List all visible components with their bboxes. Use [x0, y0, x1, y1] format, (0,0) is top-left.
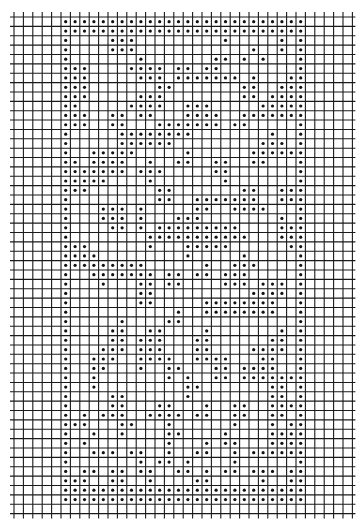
filled-cell-dot — [111, 339, 114, 342]
filled-cell-dot — [102, 367, 105, 370]
filled-cell-dot — [262, 348, 265, 351]
filled-cell-dot — [168, 320, 171, 323]
filled-cell-dot — [252, 198, 255, 201]
filled-cell-dot — [299, 470, 302, 473]
filled-cell-dot — [158, 236, 161, 239]
filled-cell-dot — [280, 498, 283, 501]
filled-cell-dot — [139, 114, 142, 117]
filled-cell-dot — [130, 142, 133, 145]
filled-cell-dot — [262, 151, 265, 154]
filled-cell-dot — [83, 470, 86, 473]
filled-cell-dot — [158, 414, 161, 417]
filled-cell-dot — [299, 301, 302, 304]
filled-cell-dot — [205, 226, 208, 229]
filled-cell-dot — [111, 329, 114, 332]
filled-cell-dot — [280, 20, 283, 23]
filled-cell-dot — [64, 207, 67, 210]
filled-cell-dot — [290, 29, 293, 32]
filled-cell-dot — [243, 404, 246, 407]
filled-cell-dot — [196, 76, 199, 79]
filled-cell-dot — [83, 76, 86, 79]
filled-cell-dot — [83, 254, 86, 257]
filled-cell-dot — [92, 489, 95, 492]
filled-cell-dot — [168, 489, 171, 492]
filled-cell-dot — [215, 367, 218, 370]
filled-cell-dot — [252, 301, 255, 304]
filled-cell-dot — [186, 376, 189, 379]
filled-cell-dot — [92, 151, 95, 154]
filled-cell-dot — [83, 489, 86, 492]
filled-cell-dot — [177, 133, 180, 136]
filled-cell-dot — [205, 301, 208, 304]
filled-cell-dot — [186, 20, 189, 23]
filled-cell-dot — [196, 20, 199, 23]
filled-cell-dot — [280, 339, 283, 342]
filled-cell-dot — [224, 498, 227, 501]
filled-cell-dot — [83, 20, 86, 23]
filled-cell-dot — [224, 161, 227, 164]
filled-cell-dot — [205, 404, 208, 407]
filled-cell-dot — [205, 20, 208, 23]
filled-cell-dot — [290, 451, 293, 454]
filled-cell-dot — [299, 48, 302, 51]
filled-cell-dot — [83, 479, 86, 482]
filled-cell-dot — [205, 357, 208, 360]
filled-cell-dot — [177, 273, 180, 276]
filled-cell-dot — [139, 104, 142, 107]
filled-cell-dot — [243, 301, 246, 304]
filled-cell-dot — [224, 470, 227, 473]
filled-cell-dot — [215, 376, 218, 379]
filled-cell-dot — [111, 20, 114, 23]
filled-cell-dot — [139, 142, 142, 145]
filled-cell-dot — [186, 386, 189, 389]
filled-cell-dot — [130, 489, 133, 492]
filled-cell-dot — [280, 376, 283, 379]
filled-cell-dot — [262, 451, 265, 454]
filled-cell-dot — [299, 86, 302, 89]
filled-cell-dot — [299, 498, 302, 501]
filled-cell-dot — [299, 404, 302, 407]
filled-cell-dot — [149, 95, 152, 98]
filled-cell-dot — [262, 367, 265, 370]
filled-cell-dot — [158, 20, 161, 23]
filled-cell-dot — [224, 301, 227, 304]
filled-cell-dot — [64, 479, 67, 482]
filled-cell-dot — [280, 414, 283, 417]
filled-cell-dot — [186, 498, 189, 501]
filled-cell-dot — [224, 236, 227, 239]
filled-cell-dot — [177, 470, 180, 473]
filled-cell-dot — [83, 170, 86, 173]
filled-cell-dot — [64, 470, 67, 473]
filled-cell-dot — [252, 161, 255, 164]
filled-cell-dot — [224, 376, 227, 379]
filled-cell-dot — [252, 498, 255, 501]
filled-cell-dot — [271, 357, 274, 360]
filled-cell-dot — [121, 489, 124, 492]
filled-cell-dot — [233, 301, 236, 304]
filled-cell-dot — [83, 114, 86, 117]
filled-cell-dot — [299, 254, 302, 257]
filled-cell-dot — [224, 170, 227, 173]
filled-cell-dot — [290, 423, 293, 426]
filled-cell-dot — [111, 451, 114, 454]
filled-cell-dot — [233, 76, 236, 79]
filled-cell-dot — [299, 236, 302, 239]
filled-cell-dot — [299, 151, 302, 154]
filled-cell-dot — [262, 489, 265, 492]
filled-cell-dot — [158, 133, 161, 136]
filled-cell-dot — [130, 451, 133, 454]
filled-cell-dot — [121, 20, 124, 23]
filled-cell-dot — [139, 76, 142, 79]
filled-cell-dot — [111, 226, 114, 229]
filled-cell-dot — [215, 170, 218, 173]
filled-cell-dot — [224, 432, 227, 435]
filled-cell-dot — [177, 29, 180, 32]
filled-cell-dot — [196, 386, 199, 389]
filled-cell-dot — [92, 498, 95, 501]
filled-cell-dot — [102, 348, 105, 351]
filled-cell-dot — [74, 29, 77, 32]
filled-cell-dot — [74, 114, 77, 117]
filled-cell-dot — [252, 95, 255, 98]
filled-cell-dot — [92, 254, 95, 257]
filled-cell-dot — [205, 273, 208, 276]
